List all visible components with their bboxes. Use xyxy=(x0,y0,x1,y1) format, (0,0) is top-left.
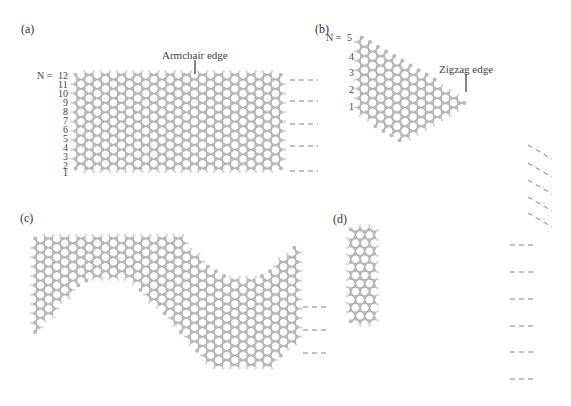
n-prefix-b: N = xyxy=(326,33,341,43)
figure: (a) Armchair edge N = 12 11 10 9 8 7 6 5… xyxy=(0,0,571,406)
panel-a-label: (a) xyxy=(21,22,34,37)
n-prefix-a: N = xyxy=(37,71,52,81)
n-label: 3 xyxy=(349,68,354,78)
panel-d-label: (d) xyxy=(333,212,347,227)
n-label: 2 xyxy=(349,85,354,95)
n-label: 1 xyxy=(349,102,354,112)
zigzag-edge-label: Zigzag edge xyxy=(439,64,493,75)
graphene-lattice-drawing xyxy=(0,0,571,406)
n-label: 4 xyxy=(349,52,354,62)
n-label: 1 xyxy=(63,168,68,178)
panel-c-label: (c) xyxy=(20,211,33,226)
n-label: 5 xyxy=(347,33,352,43)
armchair-edge-label: Armchair edge xyxy=(162,50,228,61)
